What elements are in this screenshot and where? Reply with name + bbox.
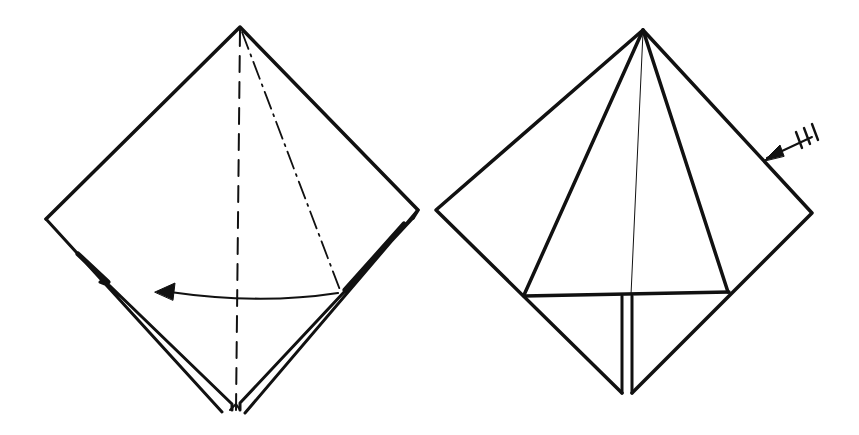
origami-diagram xyxy=(0,0,859,435)
right-vertical-flap xyxy=(622,296,632,393)
step-right xyxy=(436,30,818,393)
curved-arrow-left xyxy=(170,292,338,299)
right-kite-right xyxy=(643,30,728,292)
arrowhead-icon xyxy=(155,283,175,300)
left-lower-left-edge xyxy=(46,219,232,412)
right-kite-left xyxy=(524,30,643,295)
right-horizontal-edge xyxy=(524,292,729,296)
left-diamond-outline xyxy=(46,27,418,219)
repeat-behind-arrow-icon xyxy=(764,124,818,161)
valley-fold-vertical xyxy=(236,30,240,410)
right-diamond-outline xyxy=(436,30,812,393)
right-center-crease xyxy=(631,32,643,295)
mountain-fold-diagonal xyxy=(242,32,340,290)
step-left xyxy=(46,27,418,413)
